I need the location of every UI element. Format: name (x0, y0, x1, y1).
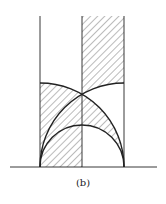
geometry-diagram (0, 0, 166, 204)
figure-caption: (b) (0, 177, 166, 188)
